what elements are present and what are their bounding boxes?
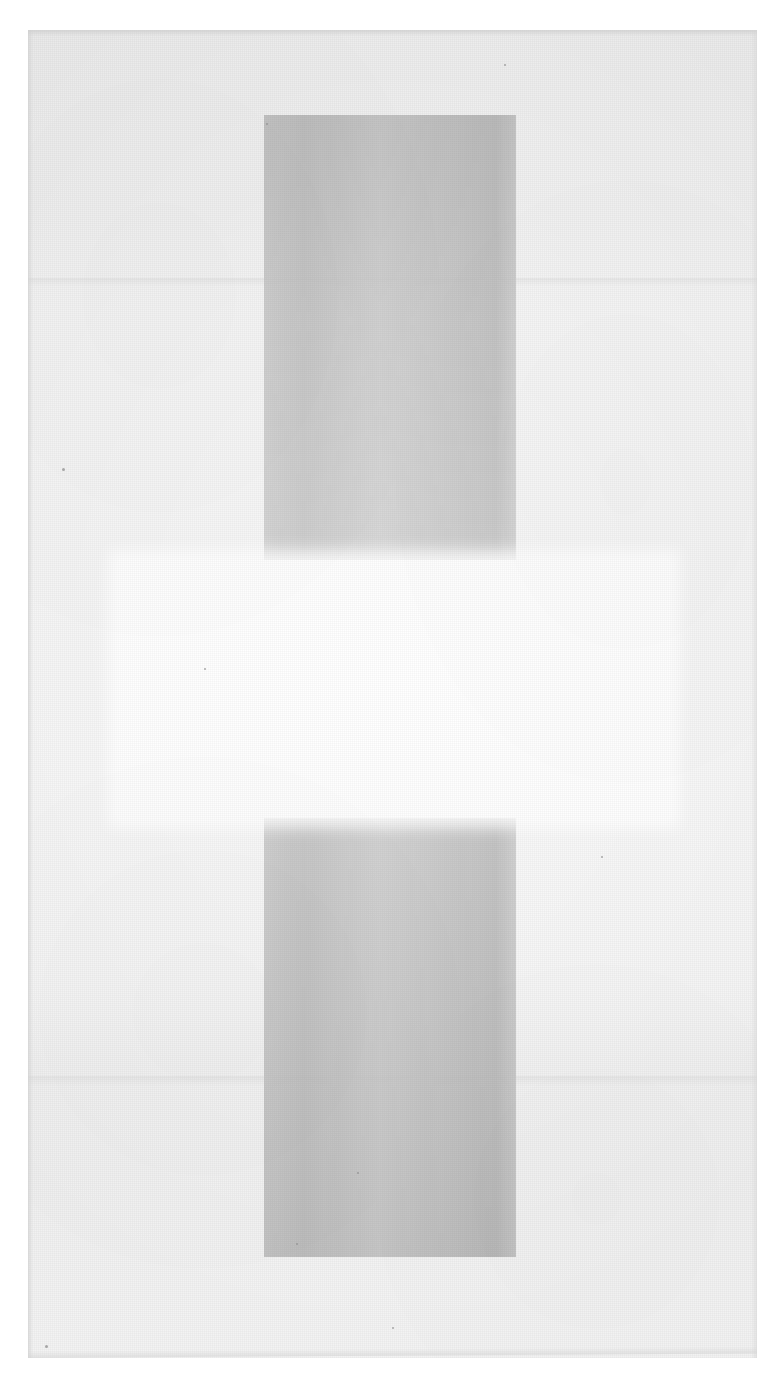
dust-speck	[266, 123, 268, 125]
dust-speck	[601, 856, 603, 858]
dust-speck	[204, 668, 206, 670]
dust-speck	[296, 1243, 298, 1245]
dust-speck	[45, 1345, 48, 1348]
scanned-page-canvas	[0, 0, 781, 1382]
sheet-edge-right	[751, 30, 757, 1358]
dust-speck	[357, 1172, 359, 1174]
sheet-edge-top	[28, 30, 757, 36]
scanned-sheet	[28, 30, 757, 1358]
bright-horizontal-band	[118, 560, 670, 818]
dust-speck	[62, 468, 65, 471]
sheet-edge-left	[28, 30, 33, 1358]
dust-speck	[392, 1327, 394, 1329]
dust-speck	[504, 64, 506, 66]
